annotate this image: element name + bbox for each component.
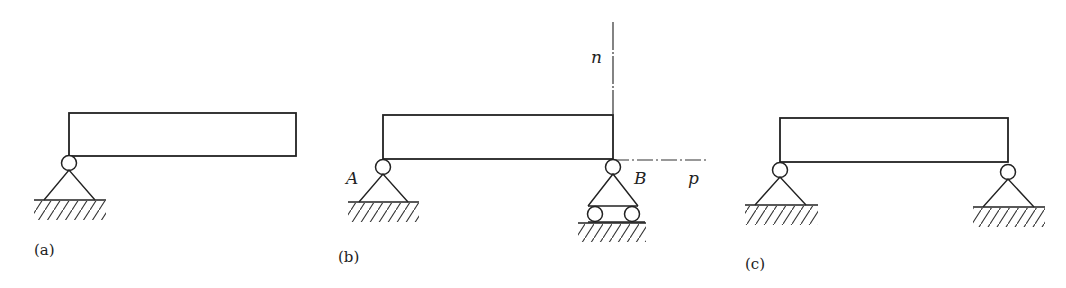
pin-support-a: [34, 156, 106, 221]
pin-support-A: [348, 160, 419, 223]
caption-c: (c): [745, 255, 765, 273]
label-A: A: [344, 168, 358, 188]
beam-c: [780, 118, 1008, 162]
caption-a: (a): [34, 241, 55, 259]
beam-b: [383, 115, 613, 159]
pin-support-c-right: [973, 165, 1045, 228]
label-B: B: [633, 168, 647, 188]
panel-c: (c): [745, 118, 1045, 273]
pin-support-c-left: [745, 163, 818, 226]
beam-support-diagram: (a) n A B p (b): [0, 0, 1066, 288]
label-p: p: [688, 168, 699, 188]
panel-a: (a): [34, 113, 296, 259]
caption-b: (b): [338, 248, 359, 266]
beam-a: [69, 113, 296, 156]
panel-b: n A B p (b): [338, 22, 708, 266]
label-n: n: [591, 47, 602, 67]
